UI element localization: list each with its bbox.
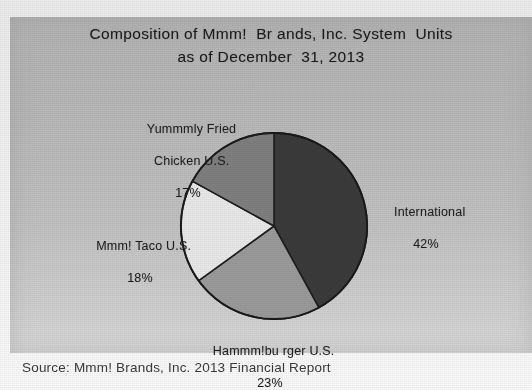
pie-label-mmm-taco-us: Mmm! Taco U.S. 18%: [70, 222, 210, 302]
pie-label-yummmly-text-line-2: Chicken U.S.: [154, 154, 229, 168]
pie-label-hammmburger-us: Hammm!bu rger U.S. 23%: [185, 327, 355, 390]
pie-label-taco-percent: 18%: [70, 270, 210, 286]
pie-label-international: International 42%: [366, 188, 486, 268]
pie-label-yummmly-fried-chicken-us: Yummmly Fried Chicken U.S. 17%: [120, 105, 256, 217]
chart-title-line-1: Composition of Mmm! Br ands, Inc. System…: [10, 22, 532, 45]
pie-label-yummmly-percent: 17%: [120, 185, 256, 201]
pie-label-burger-percent: 23%: [185, 375, 355, 390]
pie-label-international-text: International: [394, 205, 465, 219]
chart-title-line-2: as of December 31, 2013: [10, 45, 532, 68]
pie-label-taco-text: Mmm! Taco U.S.: [96, 239, 191, 253]
source-note: Source: Mmm! Brands, Inc. 2013 Financial…: [22, 360, 331, 375]
pie-label-yummmly-text-line-1: Yummmly Fried: [147, 122, 236, 136]
pie-label-burger-text: Hammm!bu rger U.S.: [213, 344, 335, 358]
chart-title: Composition of Mmm! Br ands, Inc. System…: [10, 22, 532, 68]
pie-label-international-percent: 42%: [366, 236, 486, 252]
